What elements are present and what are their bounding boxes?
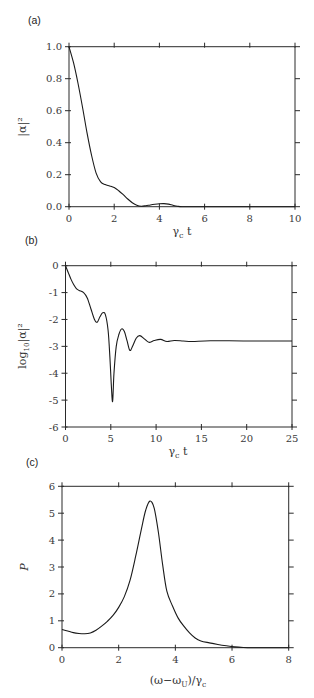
x-tick-label: 10 [289,213,302,224]
panel-b: (b) 0510152025-6-5-4-3-2-10 γc t log10|α… [16,234,298,460]
plot-a-area: 02468100.00.20.40.60.81.0 [46,41,301,224]
panel-c-label: (c) [26,456,38,468]
plot-frame [66,266,293,427]
plot-frame [62,486,289,647]
panel-c-ylabel: P [18,563,31,572]
x-tick-label: 6 [229,654,235,665]
x-tick-label: 2 [111,213,117,224]
plot-c-area: 024680123456 [49,481,294,665]
y-tick-label: 0.8 [46,73,62,84]
data-curve [62,501,289,648]
panel-b-xlabel: γc t [169,445,189,460]
y-tick-label: -1 [49,287,59,298]
y-tick-label: -4 [49,368,59,379]
y-tick-label: 1 [49,615,55,626]
panel-a-xlabel: γc t [173,225,193,240]
x-tick-label: 25 [286,433,299,444]
y-tick-label: 5 [49,508,55,519]
panel-a: (a) 02468100.00.20.40.60.81.0 γc t |α|² [16,14,301,240]
y-tick-label: 6 [49,481,55,492]
x-tick-label: 0 [62,433,68,444]
y-tick-label: -5 [49,395,59,406]
x-tick-label: 8 [247,213,253,224]
x-tick-label: 15 [195,433,208,444]
x-tick-label: 4 [156,213,162,224]
x-tick-label: 6 [201,213,207,224]
x-tick-label: 10 [150,433,163,444]
y-tick-label: -6 [49,422,59,433]
y-tick-label: 0.6 [46,105,62,116]
figure: (a) 02468100.00.20.40.60.81.0 γc t |α|² … [0,0,314,698]
panel-c: (c) 024680123456 (ω−ωU)/γc P [18,456,294,689]
y-tick-label: 0 [52,260,58,271]
x-tick-label: 8 [286,654,292,665]
y-tick-label: 3 [49,562,55,573]
x-tick-label: 0 [59,654,65,665]
y-tick-label: -3 [49,341,59,352]
data-curve [66,266,293,402]
x-tick-label: 0 [66,213,72,224]
panel-a-ylabel: |α|² [16,117,30,136]
panel-b-ylabel: log10|α|² [16,323,31,368]
y-tick-label: 0 [49,642,55,653]
x-tick-label: 20 [240,433,253,444]
data-curve [69,47,295,207]
y-tick-label: 0.4 [46,137,62,148]
panel-a-label: (a) [28,14,41,26]
y-tick-label: 0.2 [46,169,62,180]
x-tick-label: 2 [115,654,121,665]
y-tick-label: 4 [49,535,55,546]
x-tick-label: 4 [172,654,178,665]
plot-frame [69,47,295,207]
y-tick-label: 2 [49,588,55,599]
panel-c-xlabel: (ω−ωU)/γc [150,674,207,689]
plot-b-area: 0510152025-6-5-4-3-2-10 [49,260,299,444]
x-tick-label: 5 [108,433,114,444]
panel-b-label: (b) [25,234,38,246]
y-tick-label: 1.0 [46,41,62,52]
y-tick-label: -2 [49,314,59,325]
y-tick-label: 0.0 [46,201,62,212]
